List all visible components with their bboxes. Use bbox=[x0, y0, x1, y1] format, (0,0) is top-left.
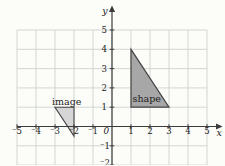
y-tick-label: 5 bbox=[102, 25, 107, 35]
y-tick-label: 1 bbox=[102, 102, 107, 112]
origin-label: 0 bbox=[103, 126, 109, 136]
shape-triangle-label: shape bbox=[133, 93, 162, 104]
x-tick-label: 1 bbox=[128, 126, 133, 136]
coordinate-grid-figure: ⁻5 ⁻4 ⁻3 ⁻2 ⁻1 1 2 3 4 5 5 4 3 2 1 ⁻1 ⁻2… bbox=[0, 0, 225, 165]
y-tick-label: ⁻2 bbox=[100, 158, 110, 166]
x-tick-label: ⁻2 bbox=[69, 126, 79, 136]
y-tick-label: 2 bbox=[102, 83, 107, 93]
x-tick-label: ⁻4 bbox=[31, 126, 42, 136]
x-tick-label: ⁻3 bbox=[50, 126, 60, 136]
y-tick-label: 3 bbox=[102, 64, 107, 74]
x-tick-label: 5 bbox=[204, 126, 209, 136]
x-axis-label: x bbox=[217, 127, 223, 138]
y-axis-label: y bbox=[101, 5, 108, 16]
x-tick-label: 4 bbox=[185, 126, 191, 136]
x-tick-label: 2 bbox=[147, 126, 152, 136]
y-tick-label: ⁻1 bbox=[100, 141, 110, 151]
x-tick-label: ⁻1 bbox=[88, 126, 98, 136]
x-tick-label: 3 bbox=[166, 126, 171, 136]
y-tick-label: 4 bbox=[102, 44, 108, 54]
image-triangle-label: image bbox=[52, 96, 82, 107]
x-tick-label: ⁻5 bbox=[12, 126, 22, 136]
